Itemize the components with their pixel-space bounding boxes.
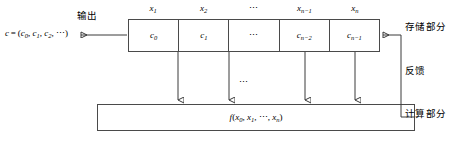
register-top-labels: x1 x2 ⋯ xn−1 xn	[128, 3, 380, 16]
register-top-label-x2: x2	[178, 3, 228, 16]
vertical-ellipsis: ⋯	[239, 78, 249, 87]
register-top-label-xn: xn	[330, 3, 380, 16]
function-expression: f(x0, x1, ⋯, xn)	[230, 112, 283, 123]
output-formula: c = (c0, c1, c2, ⋯)	[5, 29, 68, 39]
top-label-sub-4: n	[355, 7, 358, 14]
register-cell-value-3: cn−2	[297, 30, 312, 41]
storage-register-box: c0 c1 ⋯ cn−2 cn−1	[128, 19, 380, 52]
top-label-sub-0: 1	[154, 7, 157, 14]
top-label-base-2: ⋯	[249, 3, 259, 13]
feedback-shift-register-diagram: x1 x2 ⋯ xn−1 xn c0 c1 ⋯ cn−2 cn−1	[0, 0, 450, 142]
register-cell-cn-2: cn−2	[280, 20, 330, 51]
register-cell-value-4: cn−1	[347, 30, 362, 41]
register-cell-c0: c0	[129, 20, 179, 51]
register-top-label-x1: x1	[128, 3, 178, 16]
register-top-label-ellipsis: ⋯	[229, 3, 279, 16]
register-top-label-xn-1: xn−1	[279, 3, 329, 16]
output-label: 输出	[77, 11, 98, 21]
register-cell-value-2: ⋯	[249, 30, 259, 41]
register-cell-ellipsis: ⋯	[229, 20, 279, 51]
label-computation-part: 计算部分	[405, 109, 447, 119]
register-cell-cn-1: cn−1	[330, 20, 379, 51]
top-label-sub-3: n−1	[301, 7, 312, 14]
register-cell-value-0: c0	[150, 30, 157, 41]
label-storage-part: 存储部分	[405, 22, 447, 32]
computation-function-box: f(x0, x1, ⋯, xn)	[97, 104, 415, 131]
top-label-sub-1: 2	[204, 7, 207, 14]
register-cell-value-1: c1	[200, 30, 207, 41]
register-cell-c1: c1	[179, 20, 229, 51]
label-feedback: 反馈	[405, 66, 426, 76]
